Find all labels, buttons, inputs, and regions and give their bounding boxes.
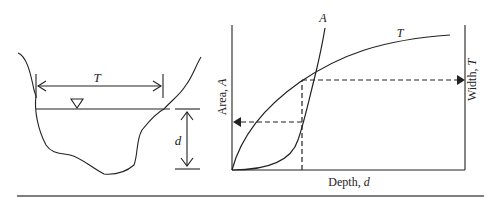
- channel-cross-section: [18, 53, 201, 174]
- width-curve: [232, 35, 450, 170]
- arrow-right-icon: [457, 75, 465, 85]
- water-surface-triangle-icon: [71, 99, 83, 108]
- graph-axes: [232, 25, 465, 170]
- top-width-label: T: [93, 70, 101, 85]
- channel-geometry-diagram: T d A T Depth, d Area, A Width, T: [0, 0, 496, 197]
- curve-width-label: T: [397, 26, 405, 40]
- depth-label: d: [175, 133, 182, 148]
- curve-area-label: A: [318, 11, 327, 25]
- left-axis-label: Area, A: [215, 78, 229, 115]
- right-axis-label: Width, T: [465, 58, 479, 102]
- x-axis-label: Depth, d: [328, 175, 370, 189]
- arrow-left-icon: [233, 117, 241, 127]
